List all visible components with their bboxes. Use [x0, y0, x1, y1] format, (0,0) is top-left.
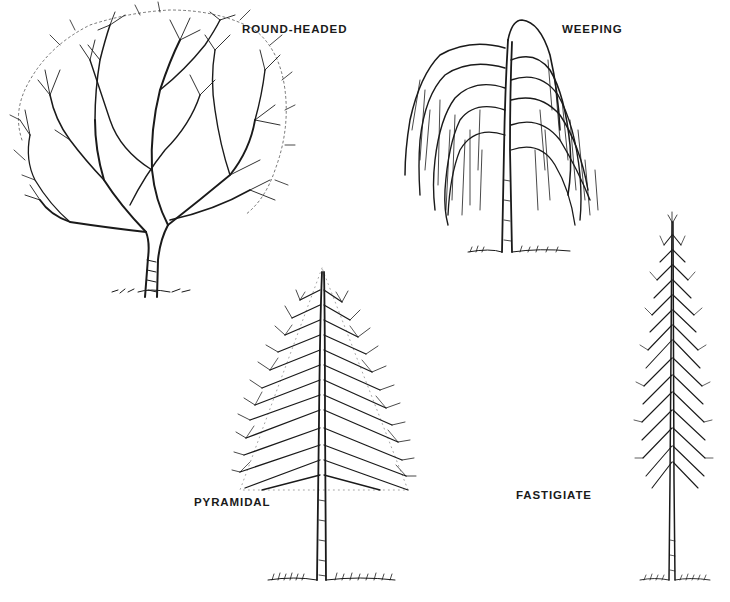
label-weeping: WEEPING	[562, 23, 623, 35]
label-fastigiate: FASTIGIATE	[516, 489, 592, 501]
round-headed-tree	[10, 2, 295, 297]
weeping-tree	[405, 20, 598, 252]
label-pyramidal: PYRAMIDAL	[194, 496, 270, 508]
fastigiate-tree	[634, 212, 713, 580]
pyramidal-tree	[232, 268, 416, 580]
tree-shapes-figure: ROUND-HEADED WEEPING PYRAMIDAL FASTIGIAT…	[0, 0, 730, 602]
tree-illustrations	[0, 0, 730, 602]
label-round-headed: ROUND-HEADED	[242, 23, 347, 35]
